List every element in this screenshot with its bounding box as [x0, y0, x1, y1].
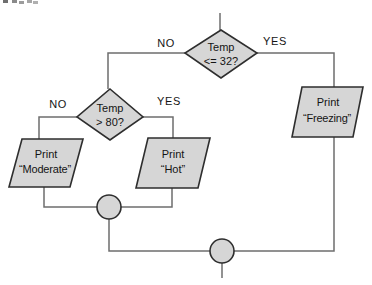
decision2-no-label: NO	[49, 98, 67, 110]
flowchart-figure: Temp <= 32? NO YES Temp > 80? NO YES Pri…	[0, 0, 372, 285]
flowchart-shapes	[9, 30, 363, 263]
process-moderate-line1: Print	[35, 148, 58, 160]
edge-yes-hot	[143, 117, 173, 139]
decision-temp-le-32	[185, 30, 257, 78]
process-hot-line2: “Hot”	[161, 163, 186, 175]
edge-hot-to-junction1	[121, 188, 172, 207]
edge-yes-freezing	[257, 53, 334, 87]
process-hot-line1: Print	[162, 148, 185, 160]
process-freezing-line1: Print	[317, 96, 340, 108]
decision-temp-gt-80	[77, 89, 143, 140]
decision1-label-line1: Temp	[208, 41, 235, 53]
decision1-yes-label: YES	[263, 35, 287, 47]
edge-no-hot	[39, 117, 77, 140]
decision2-yes-label: YES	[157, 95, 181, 107]
edge-moderate-to-junction1	[44, 187, 97, 207]
edge-freezing-to-junction2	[234, 137, 334, 251]
decision1-label-line2: <= 32?	[204, 55, 238, 67]
connector-junction-2	[210, 239, 234, 263]
decision1-no-label: NO	[157, 37, 175, 49]
process-moderate-line2: “Moderate”	[19, 163, 71, 175]
edge-junction1-to-junction2	[109, 219, 210, 251]
connector-junction-1	[97, 195, 121, 219]
flowchart-canvas: Temp <= 32? NO YES Temp > 80? NO YES Pri…	[0, 0, 372, 285]
decision2-label-line1: Temp	[97, 102, 124, 114]
decision2-label-line2: > 80?	[96, 116, 124, 128]
edge-no-freezing	[108, 53, 185, 89]
process-freezing-line2: “Freezing”	[303, 112, 352, 124]
